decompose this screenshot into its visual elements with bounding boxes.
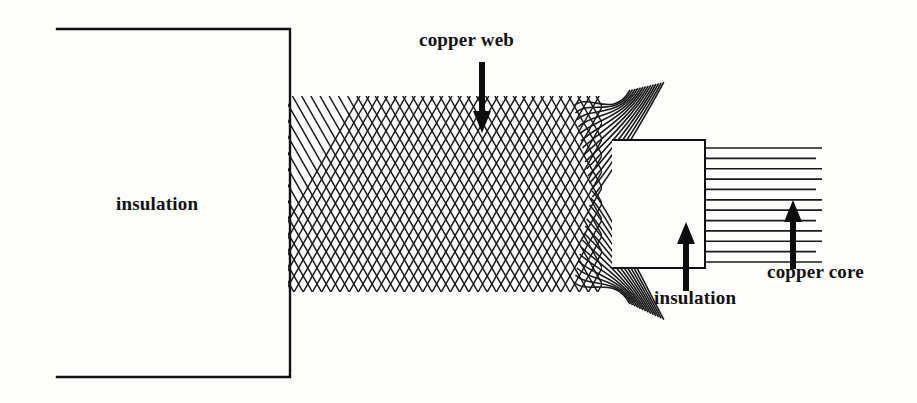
inner-insulation-shape [612, 140, 705, 268]
copper-core-lines [705, 148, 822, 262]
outer-insulation-label: insulation [116, 194, 198, 213]
coax-cable-diagram: insulation copper web insulation copper … [0, 0, 917, 403]
inner-insulation-label: insulation [654, 288, 736, 307]
copper-core-label: copper core [767, 262, 864, 281]
copper-web-label: copper web [419, 30, 514, 49]
